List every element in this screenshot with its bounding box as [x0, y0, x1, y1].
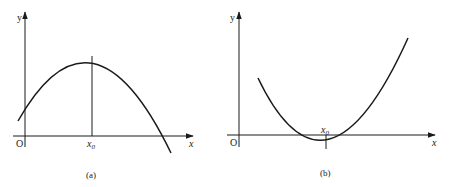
- origin-label: O: [16, 138, 23, 149]
- curve-concave-down: [18, 63, 171, 153]
- x-axis-label: x: [188, 138, 194, 149]
- panel-a: y O x0 x (a): [13, 12, 194, 180]
- caption-b: (b): [320, 168, 331, 178]
- panel-b: y O x0 x (b): [227, 12, 437, 178]
- curve-concave-up: [258, 38, 408, 140]
- origin-label: O: [230, 137, 237, 148]
- x0-label: x0: [86, 138, 95, 151]
- y-axis-label: y: [230, 12, 235, 23]
- y-axis-label: y: [17, 12, 22, 23]
- x-axis-label: x: [431, 137, 437, 148]
- caption-a: (a): [86, 170, 96, 180]
- figure-canvas: y O x0 x (a) y O x0 x (b): [0, 0, 450, 187]
